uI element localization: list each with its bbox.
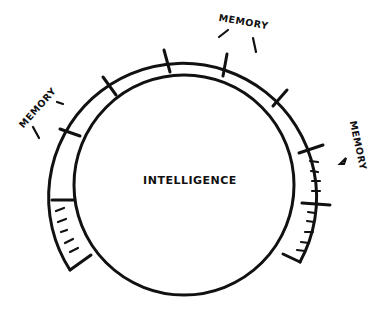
- memory-ring-left-cap: [70, 255, 91, 270]
- memory-cell-ticks-left: [56, 208, 78, 252]
- memory-label-left-group: MEMORY: [17, 85, 63, 138]
- memory-cell-ticks-right-lower: [297, 212, 315, 251]
- memory-label-left: MEMORY: [17, 85, 59, 130]
- memory-label-right: MEMORY: [348, 120, 369, 171]
- memory-label-top: MEMORY: [218, 12, 269, 32]
- intelligence-label: INTELLIGENCE: [143, 174, 237, 187]
- memory-label-top-group: MEMORY: [218, 12, 269, 52]
- memory-ring-right-cap: [283, 254, 300, 262]
- intelligence-memory-diagram: INTELLIGENCE MEMORY MEMORY MEMORY: [0, 0, 390, 321]
- memory-label-right-group: MEMORY: [340, 120, 369, 171]
